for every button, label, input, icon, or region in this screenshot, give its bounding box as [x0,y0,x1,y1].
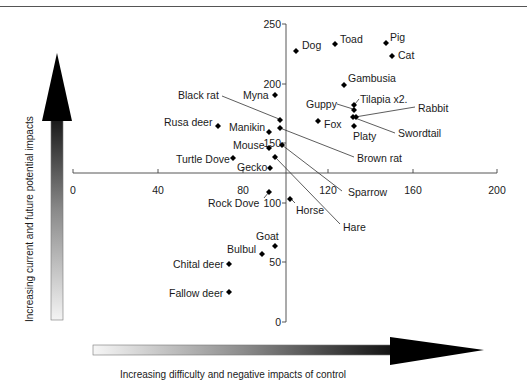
label-gambusia: Gambusia [348,72,396,84]
x-tick-label: 200 [488,184,506,196]
label-brown-rat: Brown rat [357,152,402,164]
point-manikin [266,129,272,135]
point-brown-rat [277,125,283,131]
x-tick-labels: 0 40 80 120 160 200 [70,184,506,196]
point-bulbul [259,251,265,257]
point-labels: Dog Toad Pig Cat Gambusia Tilapia x2. Gu… [164,31,448,299]
label-hare: Hare [343,221,366,233]
point-toad [332,41,338,47]
y-tick-label: 250 [263,18,281,30]
point-fallow-deer [226,289,232,295]
point-gambusia [341,82,347,88]
y-tick-label: 150 [263,137,281,149]
label-dog: Dog [302,39,321,51]
label-sparrow: Sparrow [348,186,388,198]
label-bulbul: Bulbul [227,243,256,255]
label-fox: Fox [324,118,342,130]
label-guppy: Guppy [306,98,338,110]
label-chital-deer: Chital deer [173,258,224,270]
label-platy: Platy [353,130,377,142]
point-cat [389,53,395,59]
point-horse [287,196,293,202]
label-toad: Toad [340,33,363,45]
y-tick-label: 0 [275,316,281,328]
label-rusa-deer: Rusa deer [164,116,213,128]
label-mouse: Mouse [233,139,265,151]
point-myna [272,92,278,98]
point-black-rat [277,117,283,123]
x-tick-label: 40 [152,184,164,196]
y-tick-label: 50 [269,256,281,268]
point-turtle-dove [230,155,236,161]
horizontal-control-arrow [93,337,484,365]
x-axis [73,169,497,173]
x-tick-label: 160 [404,184,422,196]
label-turtle-dove: Turtle Dove [176,153,230,165]
point-platy [351,123,357,129]
label-tilapia: Tilapia x2. [360,93,407,105]
label-black-rat: Black rat [178,89,219,101]
label-horse: Horse [296,204,324,216]
label-swordtail: Swordtail [398,127,441,139]
x-axis-caption: Increasing difficulty and negative impac… [120,369,346,380]
point-gecko [267,165,273,171]
point-guppy [351,107,357,113]
label-rabbit: Rabbit [418,102,448,114]
label-manikin: Manikin [229,121,265,133]
scatter-chart: Increasing current and future potential … [0,0,527,391]
label-rock-dove: Rock Dove [208,197,260,209]
x-tick-label: 120 [319,184,337,196]
y-axis-caption: Increasing current and future potential … [24,116,35,322]
point-pig [383,40,389,46]
label-cat: Cat [398,49,414,61]
label-pig: Pig [390,31,405,43]
point-chital-deer [226,261,232,267]
point-goat [272,243,278,249]
label-goat: Goat [256,230,279,242]
vertical-impact-arrow [42,53,72,320]
point-fox [315,118,321,124]
label-fallow-deer: Fallow deer [169,287,224,299]
x-tick-label: 80 [237,184,249,196]
y-tick-label: 100 [263,197,281,209]
label-myna: Myna [243,89,269,101]
label-gecko: Gecko [237,161,268,173]
point-dog [293,48,299,54]
point-rusa-deer [215,123,221,129]
x-tick-label: 0 [70,184,76,196]
